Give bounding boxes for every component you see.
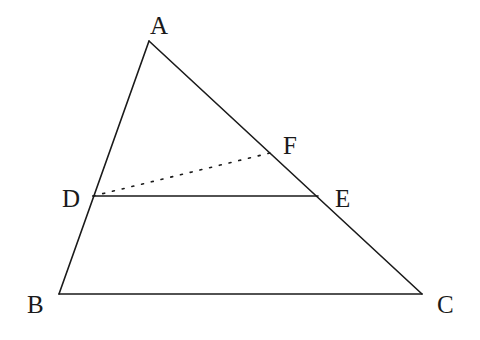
label-c: C bbox=[437, 291, 454, 318]
segment-ac bbox=[149, 41, 422, 294]
label-b: B bbox=[27, 291, 44, 318]
label-f: F bbox=[283, 132, 297, 159]
segment-df-dotted bbox=[93, 153, 270, 196]
segment-ab bbox=[59, 41, 149, 294]
label-e: E bbox=[335, 185, 350, 212]
triangle-diagram: A B C D E F bbox=[0, 0, 480, 340]
label-d: D bbox=[62, 185, 80, 212]
label-a: A bbox=[150, 12, 168, 39]
